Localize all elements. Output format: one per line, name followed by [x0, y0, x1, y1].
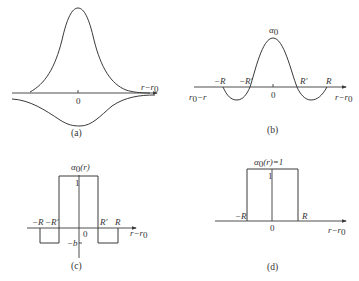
caption-a: (a) [71, 128, 82, 139]
y-axis-label-c: α0(r) [71, 162, 90, 174]
caption-d: (d) [267, 262, 278, 273]
caption-b: (b) [267, 125, 278, 136]
x-axis-label-c: r−r0 [130, 228, 148, 240]
left-axis-label-b: r0−r [189, 92, 207, 104]
caption-c: (c) [71, 261, 82, 272]
gaussian-curve-a [30, 8, 150, 93]
x-axis-label-a: r−r0 [141, 82, 159, 94]
tick-label-neg-R-b: −R [214, 76, 226, 86]
tick-label-Rprime-b: R′ [299, 76, 308, 86]
tick-label-neg-Rprime-c: −R′ [45, 217, 60, 227]
one-label-c: 1 [75, 178, 80, 188]
peak-label-b: α0 [269, 25, 279, 37]
tick-label-Rprime-c: R′ [99, 217, 108, 227]
negative-curve-a [12, 95, 155, 126]
origin-label-c: 0 [83, 229, 88, 239]
y-axis-label-d: α0(r)=1 [254, 157, 283, 169]
one-label-d: 1 [268, 171, 273, 181]
tick-label-R-b: R [325, 76, 332, 86]
x-axis-label-d: r−r0 [328, 225, 346, 237]
origin-label-b: 0 [271, 90, 276, 100]
neg-b-label-c: −b [67, 238, 78, 248]
panel-c: α0(r) 1 −R −R′ R′ R 0 −b r−r0 (c) [27, 162, 148, 272]
figure-canvas: 0 r−r0 (a) α0 −R −R′ R′ R 0 r0−r r−r0 (b… [0, 0, 359, 281]
tick-label-R-d: R [301, 211, 308, 221]
tick-label-neg-Rprime-b: −R′ [239, 76, 254, 86]
panel-a: 0 r−r0 (a) [12, 8, 159, 139]
tick-label-neg-R-d: −R [235, 211, 247, 221]
origin-label-a: 0 [76, 96, 81, 106]
tick-label-R-c: R [114, 217, 121, 227]
panel-b: α0 −R −R′ R′ R 0 r0−r r−r0 (b) [189, 25, 353, 136]
x-axis-label-b: r−r0 [335, 92, 353, 104]
rectangle-function-d [247, 169, 298, 221]
origin-label-d: 0 [270, 223, 275, 233]
panel-d: α0(r)=1 1 −R R 0 r−r0 (d) [215, 157, 346, 273]
tick-label-neg-R-c: −R [32, 217, 44, 227]
